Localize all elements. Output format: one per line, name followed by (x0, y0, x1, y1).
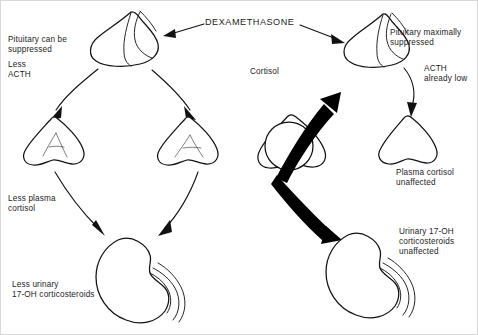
dexamethasone-suppression-diagram: DEXAMETHASONE Pituitary can be suppresse… (0, 0, 478, 335)
arrow-right-pituitary-to-right-adrenal (404, 68, 417, 117)
diagram-title: DEXAMETHASONE (205, 17, 294, 27)
arrow-cortisol-to-right-kidney (271, 175, 342, 244)
label-left-pituitary: Pituitary can be suppressed (8, 35, 67, 55)
label-left-plasma-cortisol: Less plasma cortisol (8, 194, 56, 214)
label-right-acth: ACTH already low (424, 64, 467, 84)
label-right-pituitary: Pituitary maximally suppressed (390, 28, 461, 48)
arrow-middle-adrenal-to-kidney (158, 172, 198, 236)
adrenal-gland-left-icon (24, 117, 84, 165)
label-right-plasma-cortisol: Plasma cortisol unaffected (396, 168, 454, 188)
label-right-urinary-corticosteroids: Urinary 17-OH corticosteroids unaffected (399, 227, 454, 258)
label-cortisol: Cortisol (250, 67, 279, 77)
adrenal-gland-right-icon (379, 116, 437, 164)
arrow-left-pituitary-to-middle-adrenal (152, 70, 196, 120)
label-left-acth: Less ACTH (8, 60, 31, 80)
arrow-left-adrenal-to-kidney (55, 172, 105, 236)
arrow-dexamethasone-to-right-pituitary (300, 25, 345, 44)
arrow-left-pituitary-to-left-adrenal (50, 69, 98, 120)
pituitary-gland-left-icon (90, 11, 158, 66)
arrow-dexamethasone-to-left-pituitary (163, 24, 204, 38)
adrenal-gland-middle-icon (158, 117, 218, 165)
kidney-left-icon (96, 238, 185, 322)
label-left-urinary-corticosteroids: Less urinary 17-OH corticosteroids (12, 280, 95, 300)
